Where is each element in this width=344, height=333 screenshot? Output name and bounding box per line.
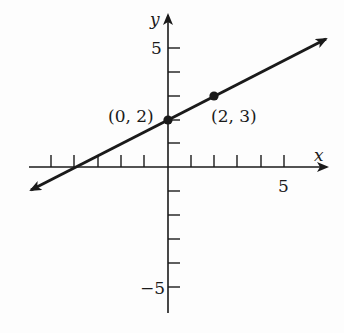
x-axis-label: x — [314, 145, 324, 165]
point-0-2 — [163, 115, 172, 124]
point-label-0-2: (0, 2) — [108, 106, 154, 126]
y-tick-label-5: 5 — [151, 38, 162, 58]
x-tick-label-5: 5 — [278, 176, 289, 196]
y-axis-label: y — [149, 9, 160, 29]
graph-canvas: x y 5 5 −5 (0, 2) (2, 3) — [0, 0, 344, 333]
point-2-3 — [209, 91, 218, 100]
point-label-2-3: (2, 3) — [211, 106, 257, 126]
line-graph: x y 5 5 −5 (0, 2) (2, 3) — [0, 0, 344, 333]
y-tick-label-neg5: −5 — [140, 278, 165, 298]
